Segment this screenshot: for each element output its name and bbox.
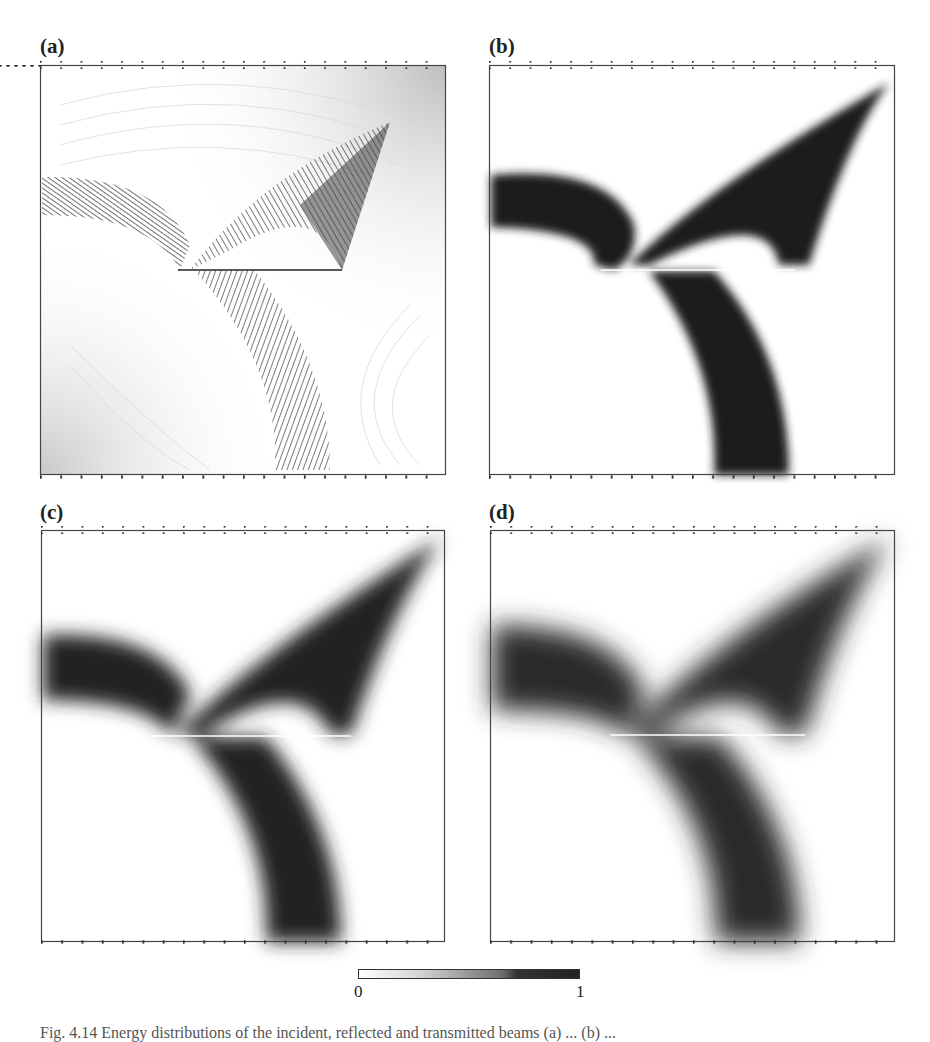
panel-a-plot	[40, 65, 446, 475]
panel-b-plot	[489, 65, 895, 475]
figure-caption: Fig. 4.14 Energy distributions of the in…	[40, 1024, 616, 1042]
colorbar-min-label: 0	[354, 982, 363, 1002]
panel-a	[40, 65, 446, 475]
colorbar	[358, 969, 580, 979]
panel-b	[489, 65, 895, 475]
panel-label-c: (c)	[40, 500, 63, 525]
panel-c	[41, 530, 445, 942]
panel-d-plot	[490, 530, 895, 942]
panel-label-b: (b)	[489, 34, 515, 59]
panel-c-plot	[41, 530, 445, 942]
colorbar-max-label: 1	[576, 982, 585, 1002]
panel-label-d: (d)	[489, 500, 515, 525]
panel-d	[490, 530, 895, 942]
panel-label-a: (a)	[40, 34, 65, 59]
